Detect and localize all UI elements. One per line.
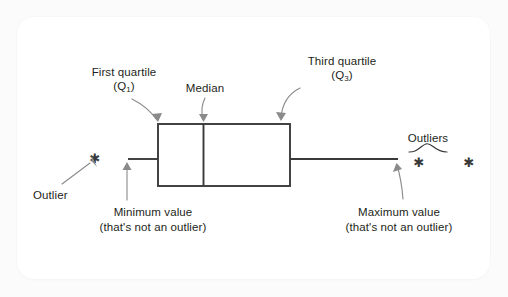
arrow-outlier-left-curve [62, 163, 90, 184]
label-outliers-group: Outliers [408, 131, 448, 145]
label-first-quartile-line2: (Q1) [113, 80, 134, 92]
label-maximum-value-line2: (that's not an outlier) [346, 221, 453, 233]
label-q1-subscript: 1 [126, 85, 131, 94]
figure-canvas: ✱ ✱ ✱ First quartile (Q1) Median Third q… [0, 0, 508, 297]
boxplot-box [158, 124, 290, 186]
label-third-quartile-line2: (Q3) [331, 69, 352, 81]
arrow-first-quartile-curve [132, 99, 157, 120]
arrowhead-maximum-value [393, 163, 402, 172]
label-first-quartile: First quartile (Q1) [92, 65, 157, 95]
label-minimum-value-line2: (that's not an outlier) [100, 221, 207, 233]
label-third-quartile: Third quartile (Q3) [308, 54, 377, 84]
arrowhead-median [199, 114, 208, 122]
arrowhead-third-quartile [276, 112, 286, 121]
label-q3-subscript: 3 [344, 74, 349, 83]
label-median: Median [186, 81, 224, 95]
label-maximum-value-line1: Maximum value [358, 206, 440, 218]
label-maximum-value: Maximum value (that's not an outlier) [346, 205, 453, 235]
arrowhead-first-quartile [152, 113, 162, 122]
boxplot-diagram: ✱ ✱ ✱ [0, 0, 508, 297]
outlier-asterisk-right-2: ✱ [464, 155, 475, 170]
label-third-quartile-line1: Third quartile [308, 55, 377, 67]
arrowhead-minimum-value [123, 162, 132, 170]
label-first-quartile-line1: First quartile [92, 66, 157, 78]
label-outlier-single: Outlier [33, 188, 68, 202]
label-minimum-value: Minimum value (that's not an outlier) [100, 205, 207, 235]
outlier-asterisk-right-1: ✱ [414, 155, 425, 170]
label-minimum-value-line1: Minimum value [114, 206, 193, 218]
